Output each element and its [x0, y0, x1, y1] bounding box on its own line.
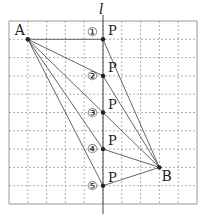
point-p3: [101, 110, 105, 114]
point-p5-label: P: [108, 170, 117, 185]
point-p2-label: P: [108, 60, 117, 75]
marker-5: ⑤: [87, 179, 98, 193]
marker-2: ②: [87, 69, 98, 83]
line-l-label: l: [99, 1, 103, 17]
point-a: [26, 37, 30, 41]
point-p5: [101, 184, 105, 188]
diagram-figure: l ABP①P②P③P④P⑤: [0, 0, 199, 214]
point-p2: [101, 74, 105, 78]
marker-4: ④: [87, 142, 98, 156]
marker-3: ③: [87, 106, 98, 120]
point-b-label: B: [161, 168, 171, 184]
point-p1-label: P: [108, 23, 117, 38]
marker-1: ①: [87, 25, 98, 39]
point-p1: [101, 37, 105, 41]
point-p3-label: P: [108, 97, 117, 112]
segment-p4-b: [103, 149, 159, 167]
segment-a-p4: [28, 39, 103, 149]
point-a-label: A: [14, 22, 26, 38]
point-p4-label: P: [108, 133, 117, 148]
segment-p2-b: [103, 76, 159, 167]
point-p4: [101, 147, 105, 151]
